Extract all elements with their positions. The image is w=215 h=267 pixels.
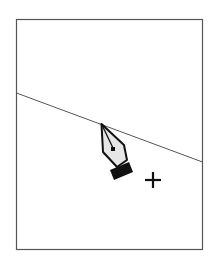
illustration-canvas: [0, 0, 215, 267]
